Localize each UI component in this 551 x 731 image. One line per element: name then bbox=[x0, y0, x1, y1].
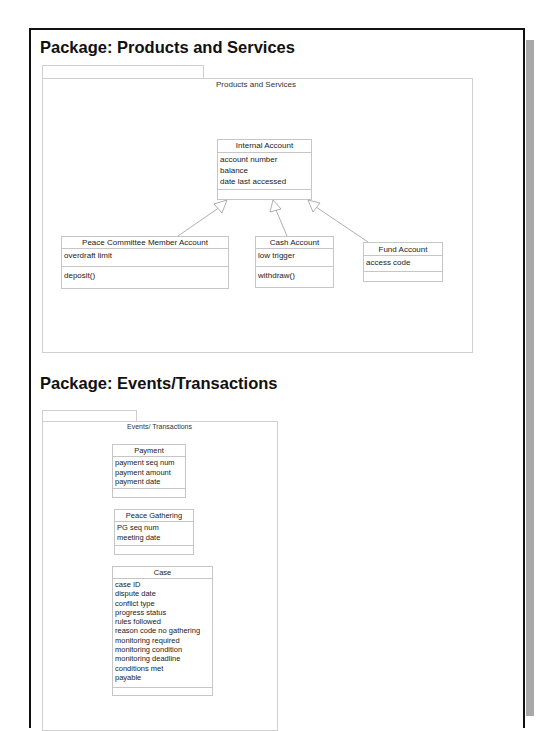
class-attributes: PG seq num meeting date bbox=[115, 522, 193, 546]
attribute: balance bbox=[220, 165, 309, 176]
attribute: payment seq num bbox=[115, 458, 183, 468]
attribute: low trigger bbox=[258, 250, 331, 262]
package-tab-products-services bbox=[42, 65, 204, 79]
attribute: payment amount bbox=[115, 468, 183, 478]
attribute: monitoring deadline bbox=[115, 654, 210, 663]
attribute: access code bbox=[366, 257, 440, 268]
attribute: date last accessed bbox=[220, 176, 309, 187]
class-operations bbox=[218, 190, 311, 199]
class-operations bbox=[113, 688, 212, 696]
package-frame-products-services bbox=[42, 78, 473, 353]
class-operations: withdraw() bbox=[256, 267, 333, 287]
class-operations bbox=[364, 272, 442, 281]
class-name: Payment bbox=[113, 445, 185, 457]
attribute: payable bbox=[115, 673, 210, 682]
class-operations: deposit() bbox=[62, 267, 228, 287]
class-internal-account: Internal Account account number balance … bbox=[217, 139, 312, 200]
class-attributes: low trigger bbox=[256, 249, 333, 267]
class-attributes: overdraft limit bbox=[62, 249, 228, 267]
attribute: case ID bbox=[115, 580, 210, 589]
class-operations bbox=[113, 489, 185, 497]
attribute: conflict type bbox=[115, 599, 210, 608]
class-payment: Payment payment seq num payment amount p… bbox=[112, 444, 186, 498]
class-attributes: account number balance date last accesse… bbox=[218, 153, 311, 190]
package-label-products-services: Products and Services bbox=[216, 80, 296, 89]
class-name: Peace Gathering bbox=[115, 510, 193, 522]
attribute: meeting date bbox=[117, 533, 191, 543]
page-shadow bbox=[526, 40, 534, 716]
attribute: account number bbox=[220, 154, 309, 165]
attribute: payment date bbox=[115, 477, 183, 487]
class-cash-account: Cash Account low trigger withdraw() bbox=[255, 236, 334, 288]
class-peace-committee-member-account: Peace Committee Member Account overdraft… bbox=[61, 236, 229, 289]
package-heading-events-transactions: Package: Events/Transactions bbox=[40, 374, 278, 393]
class-fund-account: Fund Account access code bbox=[363, 242, 443, 282]
attribute: progress status bbox=[115, 608, 210, 617]
attribute: reason code no gathering bbox=[115, 626, 210, 635]
class-name: Peace Committee Member Account bbox=[62, 237, 228, 249]
class-attributes: access code bbox=[364, 256, 442, 272]
class-name: Internal Account bbox=[218, 140, 311, 153]
class-name: Case bbox=[113, 567, 212, 579]
package-label-events-transactions: Events/ Transactions bbox=[127, 423, 192, 430]
class-name: Cash Account bbox=[256, 237, 333, 249]
class-attributes: payment seq num payment amount payment d… bbox=[113, 457, 185, 489]
attribute: rules followed bbox=[115, 617, 210, 626]
class-case: Case case ID dispute date conflict type … bbox=[112, 566, 213, 696]
attribute: dispute date bbox=[115, 589, 210, 598]
package-heading-products-services: Package: Products and Services bbox=[40, 38, 295, 57]
class-peace-gathering: Peace Gathering PG seq num meeting date bbox=[114, 509, 194, 555]
attribute: monitoring condition bbox=[115, 645, 210, 654]
class-attributes: case ID dispute date conflict type progr… bbox=[113, 579, 212, 688]
attribute: overdraft limit bbox=[64, 250, 226, 262]
attribute: conditions met bbox=[115, 664, 210, 673]
attribute: monitoring required bbox=[115, 636, 210, 645]
attribute: PG seq num bbox=[117, 523, 191, 533]
class-operations bbox=[115, 546, 193, 554]
class-name: Fund Account bbox=[364, 243, 442, 256]
